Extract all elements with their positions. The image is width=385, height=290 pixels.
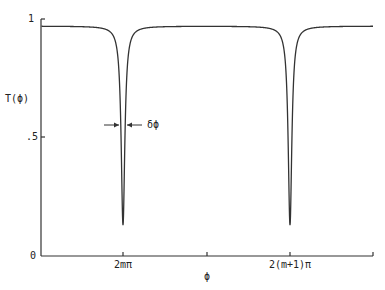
y-axis-label: T(ϕ) bbox=[5, 93, 29, 104]
delta-phi-label: δϕ bbox=[147, 119, 159, 130]
delta-phi-annotation: δϕ bbox=[104, 119, 159, 130]
x-tick-label-2m-pi: 2mπ bbox=[114, 259, 132, 270]
x-axis-label: ϕ bbox=[204, 271, 210, 282]
transmission-chart: 1 .5 0 T(ϕ) 2mπ 2(m+1)π ϕ δϕ bbox=[0, 0, 385, 290]
y-tick-label-0: 0 bbox=[30, 250, 36, 261]
y-tick-label-1: 1 bbox=[28, 13, 34, 24]
x-tick-label-2m1-pi: 2(m+1)π bbox=[269, 259, 311, 270]
y-tick-label-0.5: .5 bbox=[26, 131, 38, 142]
transmission-curve bbox=[42, 26, 374, 225]
